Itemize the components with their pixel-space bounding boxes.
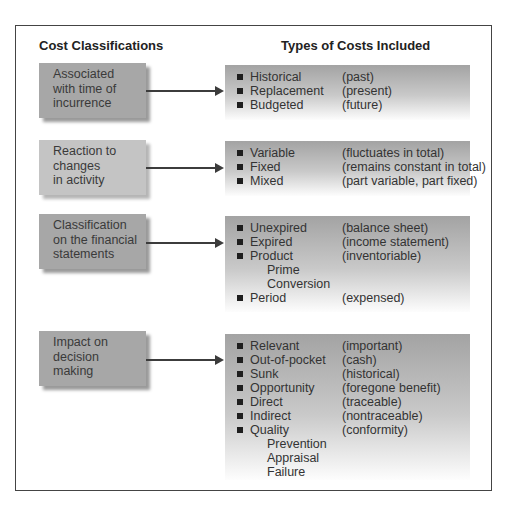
- classification-line: making: [53, 364, 146, 379]
- classification-box-financial-statements: Classification on the financial statemen…: [39, 214, 146, 269]
- cost-type-description: (historical): [342, 367, 400, 381]
- cost-type-row: Unexpired(balance sheet): [235, 221, 470, 235]
- classification-line: on the financial: [53, 233, 146, 248]
- cost-type-description: (important): [342, 339, 402, 353]
- cost-type-description: (cash): [342, 353, 377, 367]
- classification-line: statements: [53, 247, 146, 262]
- cost-type-row: Fixed(remains constant in total): [235, 160, 470, 174]
- cost-subtype-term: Failure: [267, 465, 305, 479]
- cost-subtype-term: Conversion: [267, 277, 330, 291]
- cost-type-row: Expired(income statement): [235, 235, 470, 249]
- classification-box-reaction-to-activity: Reaction to changes in activity: [39, 140, 146, 195]
- cost-type-row: Product(inventoriable): [235, 249, 470, 263]
- classification-box-time-of-incurrence: Associated with time of incurrence: [39, 63, 146, 118]
- cost-type-term: Budgeted: [250, 98, 304, 112]
- cost-type-row: Budgeted(future): [235, 98, 470, 112]
- cost-type-term: Replacement: [250, 84, 324, 98]
- arrow-right-icon: [146, 242, 222, 244]
- types-box-time-of-incurrence: Historical(past)Replacement(present)Budg…: [225, 65, 470, 120]
- square-bullet-icon: [237, 225, 243, 231]
- square-bullet-icon: [237, 295, 243, 301]
- classification-box-decision-making: Impact on decision making: [39, 331, 146, 386]
- cost-subtype-row: Failure: [235, 465, 470, 479]
- arrow-right-icon: [146, 359, 222, 361]
- square-bullet-icon: [237, 253, 243, 259]
- cost-type-description: (traceable): [342, 395, 402, 409]
- cost-subtype-row: Appraisal: [235, 451, 470, 465]
- heading-types-of-costs: Types of Costs Included: [281, 38, 430, 53]
- types-box-decision-making: Relevant(important)Out-of-pocket(cash)Su…: [225, 334, 470, 480]
- cost-type-row: Indirect(nontraceable): [235, 409, 470, 423]
- cost-type-row: Direct(traceable): [235, 395, 470, 409]
- classification-line: in activity: [53, 173, 146, 188]
- cost-subtype-row: Prevention: [235, 437, 470, 451]
- cost-type-term: Mixed: [250, 174, 283, 188]
- square-bullet-icon: [237, 371, 243, 377]
- square-bullet-icon: [237, 88, 243, 94]
- square-bullet-icon: [237, 164, 243, 170]
- cost-subtype-term: Appraisal: [267, 451, 319, 465]
- cost-type-term: Historical: [250, 70, 301, 84]
- square-bullet-icon: [237, 102, 243, 108]
- cost-type-description: (foregone benefit): [342, 381, 441, 395]
- classification-line: incurrence: [53, 96, 146, 111]
- cost-subtype-term: Prevention: [267, 437, 327, 451]
- square-bullet-icon: [237, 357, 243, 363]
- cost-type-row: Sunk(historical): [235, 367, 470, 381]
- square-bullet-icon: [237, 427, 243, 433]
- classification-line: with time of: [53, 82, 146, 97]
- cost-type-term: Relevant: [250, 339, 299, 353]
- cost-type-description: (balance sheet): [342, 221, 428, 235]
- cost-type-row: Replacement(present): [235, 84, 470, 98]
- cost-type-description: (conformity): [342, 423, 408, 437]
- cost-type-term: Out-of-pocket: [250, 353, 326, 367]
- cost-type-term: Sunk: [250, 367, 279, 381]
- cost-type-row: Out-of-pocket(cash): [235, 353, 470, 367]
- cost-type-row: Variable(fluctuates in total): [235, 146, 470, 160]
- cost-type-term: Fixed: [250, 160, 281, 174]
- square-bullet-icon: [237, 239, 243, 245]
- square-bullet-icon: [237, 413, 243, 419]
- cost-type-description: (expensed): [342, 291, 405, 305]
- cost-type-description: (fluctuates in total): [342, 146, 444, 160]
- types-box-reaction-to-activity: Variable(fluctuates in total)Fixed(remai…: [225, 141, 470, 196]
- cost-type-row: Mixed(part variable, part fixed): [235, 174, 470, 188]
- classification-line: Reaction to: [53, 144, 146, 159]
- cost-type-description: (remains constant in total): [342, 160, 486, 174]
- cost-type-term: Unexpired: [250, 221, 307, 235]
- classification-line: decision: [53, 350, 146, 365]
- cost-type-description: (income statement): [342, 235, 449, 249]
- classification-line: Impact on: [53, 335, 146, 350]
- square-bullet-icon: [237, 385, 243, 391]
- square-bullet-icon: [237, 343, 243, 349]
- cost-subtype-row: Conversion: [235, 277, 470, 291]
- cost-type-term: Expired: [250, 235, 292, 249]
- cost-type-row: Opportunity(foregone benefit): [235, 381, 470, 395]
- cost-type-term: Period: [250, 291, 286, 305]
- classification-line: Associated: [53, 67, 146, 82]
- heading-cost-classifications: Cost Classifications: [39, 38, 163, 53]
- cost-type-term: Direct: [250, 395, 283, 409]
- square-bullet-icon: [237, 150, 243, 156]
- cost-type-row: Period(expensed): [235, 291, 470, 305]
- cost-type-description: (past): [342, 70, 374, 84]
- cost-subtype-row: Prime: [235, 263, 470, 277]
- cost-type-term: Opportunity: [250, 381, 315, 395]
- cost-type-term: Product: [250, 249, 293, 263]
- cost-subtype-term: Prime: [267, 263, 300, 277]
- cost-type-term: Quality: [250, 423, 289, 437]
- classification-line: changes: [53, 159, 146, 174]
- cost-type-description: (part variable, part fixed): [342, 174, 477, 188]
- classification-line: Classification: [53, 218, 146, 233]
- cost-type-term: Variable: [250, 146, 295, 160]
- cost-type-description: (nontraceable): [342, 409, 423, 423]
- cost-type-row: Quality(conformity): [235, 423, 470, 437]
- square-bullet-icon: [237, 399, 243, 405]
- arrow-right-icon: [146, 167, 222, 169]
- cost-type-description: (present): [342, 84, 392, 98]
- cost-type-row: Relevant(important): [235, 339, 470, 353]
- cost-type-row: Historical(past): [235, 70, 470, 84]
- cost-type-term: Indirect: [250, 409, 291, 423]
- square-bullet-icon: [237, 74, 243, 80]
- types-box-financial-statements: Unexpired(balance sheet)Expired(income s…: [225, 216, 470, 312]
